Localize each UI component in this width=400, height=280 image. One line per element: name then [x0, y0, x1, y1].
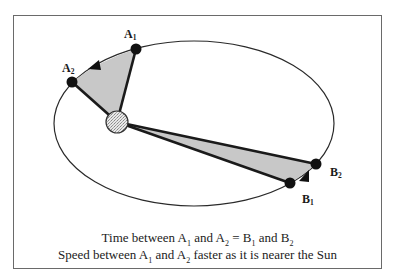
label-b1: B1: [302, 192, 314, 207]
point-a1: [131, 44, 142, 55]
label-a1: A1: [124, 27, 137, 42]
label-b2: B2: [330, 165, 342, 180]
point-b2: [311, 159, 322, 170]
caption-line-2: Speed between A1 and A2 faster as it is …: [13, 247, 382, 269]
arrow-a-icon: [88, 60, 101, 70]
point-b1: [285, 178, 296, 189]
label-a2: A2: [62, 61, 75, 76]
point-a2: [67, 77, 78, 88]
sun-icon: [106, 111, 128, 133]
